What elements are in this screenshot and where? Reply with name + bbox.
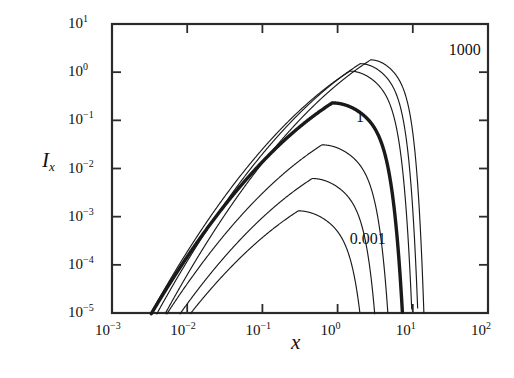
y-tick-label: 100: [68, 61, 88, 80]
y-axis-label: Ix: [42, 148, 55, 173]
x-tick-label: 10−2: [170, 320, 196, 339]
x-tick-label: 10−3: [95, 320, 121, 339]
y-tick-label: 10−4: [68, 254, 94, 273]
x-tick-label: 100: [321, 320, 341, 339]
curve-annotation: 1: [356, 108, 364, 126]
x-tick-label: 10−1: [245, 320, 271, 339]
x-tick-label: 101: [396, 320, 416, 339]
curve-annotation: 0.001: [350, 230, 386, 248]
y-tick-label: 10−5: [68, 302, 94, 321]
x-axis-label: x: [291, 330, 300, 355]
y-tick-label: 101: [68, 13, 88, 32]
y-tick-label: 10−3: [68, 206, 94, 225]
y-tick-label: 10−1: [68, 109, 94, 128]
curve-annotation: 1000: [449, 41, 481, 59]
y-tick-label: 10−2: [68, 158, 94, 177]
x-tick-label: 102: [471, 320, 491, 339]
